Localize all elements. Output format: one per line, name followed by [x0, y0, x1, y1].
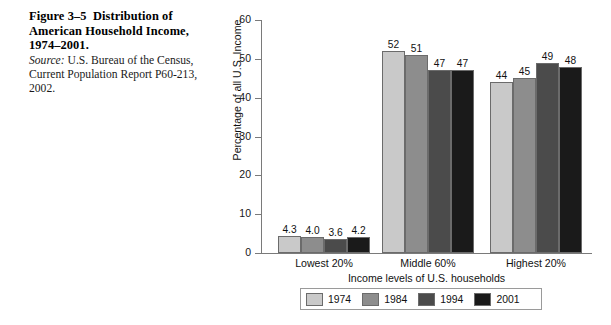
legend-item: 1974 — [306, 293, 351, 306]
y-tick-mark — [255, 253, 261, 254]
bar: 44 — [490, 82, 513, 253]
legend-item: 1984 — [362, 293, 407, 306]
bar-value-label: 52 — [388, 39, 399, 50]
legend-item: 1994 — [418, 293, 463, 306]
y-tick-mark — [255, 137, 261, 138]
bar: 4.3 — [278, 236, 301, 253]
y-axis-title: Percentage of all U.S. Income — [231, 10, 243, 170]
y-tick-mark — [255, 175, 261, 176]
x-group-label: Lowest 20% — [278, 257, 370, 269]
x-group-label: Middle 60% — [382, 257, 474, 269]
bar-value-label: 47 — [434, 58, 445, 69]
bar: 45 — [513, 78, 536, 253]
bar-value-label: 49 — [542, 51, 553, 62]
y-tick: 50 — [255, 59, 261, 60]
y-tick: 40 — [255, 98, 261, 99]
y-tick: 20 — [255, 175, 261, 176]
bar-value-label: 47 — [457, 58, 468, 69]
figure-title-line2: American Household Income, — [29, 24, 189, 38]
bar-value-label: 44 — [496, 70, 507, 81]
figure-title-line1: Distribution of — [93, 9, 173, 23]
figure-caption-title: Figure 3–5 Distribution of American Hous… — [29, 9, 215, 53]
y-tick: 30 — [255, 137, 261, 138]
source-label: Source: — [29, 54, 65, 67]
figure-page: Figure 3–5 Distribution of American Hous… — [0, 0, 611, 325]
x-axis-line — [261, 253, 592, 254]
bar-value-label: 4.2 — [351, 225, 365, 236]
legend-swatch — [362, 293, 379, 306]
bar-chart: 0102030405060 Percentage of all U.S. Inc… — [210, 10, 602, 270]
bar-value-label: 45 — [519, 66, 530, 77]
y-tick-mark — [255, 214, 261, 215]
figure-caption: Figure 3–5 Distribution of American Hous… — [29, 9, 215, 96]
legend-swatch — [306, 293, 323, 306]
y-tick-label: 20 — [239, 168, 251, 180]
figure-source: Source: U.S. Bureau of the Census, Curre… — [29, 54, 215, 97]
y-tick: 60 — [255, 20, 261, 21]
y-tick-label: 0 — [245, 246, 251, 258]
bar: 4.2 — [347, 237, 370, 253]
bar: 47 — [451, 70, 474, 253]
legend-item: 2001 — [474, 293, 519, 306]
y-tick-label: 10 — [239, 207, 251, 219]
x-group-label: Highest 20% — [490, 257, 582, 269]
figure-title-line3: 1974–2001. — [29, 38, 89, 52]
chart-legend: 1974198419942001 — [300, 288, 542, 310]
plot-area: 4.34.03.64.25251474744454948 — [262, 20, 590, 253]
legend-swatch — [418, 293, 435, 306]
bar-value-label: 51 — [411, 43, 422, 54]
bar-value-label: 3.6 — [328, 227, 342, 238]
bar: 48 — [559, 67, 582, 253]
bar: 49 — [536, 63, 559, 253]
legend-label: 1994 — [440, 294, 463, 305]
legend-label: 1984 — [384, 294, 407, 305]
x-axis-title: Income levels of U.S. households — [261, 272, 592, 284]
legend-swatch — [474, 293, 491, 306]
y-tick-mark — [255, 59, 261, 60]
y-tick-mark — [255, 20, 261, 21]
y-tick: 0 — [255, 253, 261, 254]
bar: 51 — [405, 55, 428, 253]
bar-value-label: 4.3 — [282, 224, 296, 235]
bar: 4.0 — [301, 237, 324, 253]
bar: 47 — [428, 70, 451, 253]
y-tick: 10 — [255, 214, 261, 215]
bar: 52 — [382, 51, 405, 253]
bar-value-label: 4.0 — [305, 225, 319, 236]
bar: 3.6 — [324, 239, 347, 253]
legend-label: 1974 — [328, 294, 351, 305]
legend-label: 2001 — [496, 294, 519, 305]
figure-number: Figure 3–5 — [29, 9, 87, 23]
bar-value-label: 48 — [565, 55, 576, 66]
y-tick-mark — [255, 98, 261, 99]
